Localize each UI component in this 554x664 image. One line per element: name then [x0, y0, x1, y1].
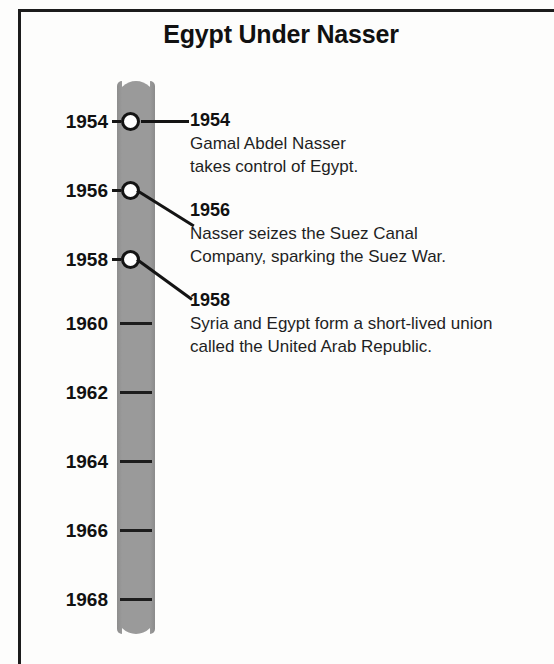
timeline-tick-1966 [120, 529, 152, 532]
timeline-bar-left-shading [117, 81, 122, 634]
page-frame-top-rule [18, 9, 554, 12]
event-year-1954: 1954 [190, 110, 520, 131]
page-title: Egypt Under Nasser [21, 20, 541, 49]
axis-year-label-1966: 1966 [30, 520, 108, 542]
timeline-bar [117, 81, 155, 634]
axis-year-label-1960: 1960 [30, 313, 108, 335]
page-frame-left-rule [18, 9, 21, 664]
timeline-bar-right-shading [150, 81, 155, 634]
axis-year-label-1968: 1968 [30, 589, 108, 611]
event-description-1958: Syria and Egypt form a short-lived union… [190, 312, 550, 358]
event-description-1956: Nasser seizes the Suez Canal Company, sp… [190, 222, 530, 268]
timeline-tick-1964 [120, 460, 152, 463]
event-block-1954: 1954 Gamal Abdel Nasser takes control of… [190, 110, 520, 178]
timeline-marker-stub-1958 [112, 258, 121, 261]
timeline-tick-1962 [120, 391, 152, 394]
event-year-1956: 1956 [190, 200, 530, 221]
axis-year-label-1954: 1954 [30, 111, 108, 133]
axis-year-label-1958: 1958 [30, 249, 108, 271]
timeline-infographic: Egypt Under Nasser 1954 1956 1958 1960 1… [0, 0, 554, 664]
event-year-1958: 1958 [190, 290, 550, 311]
timeline-marker-stub-1954 [112, 120, 121, 123]
connector-line-1954 [141, 120, 189, 123]
timeline-marker-stub-1956 [112, 189, 121, 192]
axis-year-label-1962: 1962 [30, 382, 108, 404]
timeline-tick-1960 [120, 322, 152, 325]
axis-year-label-1964: 1964 [30, 451, 108, 473]
event-block-1958: 1958 Syria and Egypt form a short-lived … [190, 290, 550, 358]
event-description-1954: Gamal Abdel Nasser takes control of Egyp… [190, 132, 520, 178]
axis-year-label-1956: 1956 [30, 180, 108, 202]
timeline-tick-1968 [120, 598, 152, 601]
timeline-marker-1954[interactable] [121, 112, 140, 131]
event-block-1956: 1956 Nasser seizes the Suez Canal Compan… [190, 200, 530, 268]
